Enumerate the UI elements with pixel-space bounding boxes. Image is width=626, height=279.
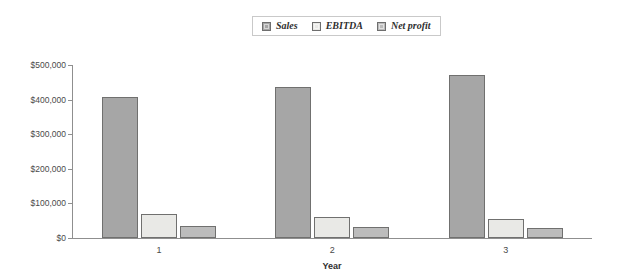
bar-sales-3[interactable]: [449, 75, 485, 238]
legend-swatch-net-profit: [377, 22, 386, 31]
legend-swatch-sales: [262, 22, 271, 31]
y-axis-line: [72, 65, 73, 238]
bar-net-profit-1[interactable]: [180, 226, 216, 238]
legend-label-sales: Sales: [276, 21, 298, 31]
legend-swatch-ebitda: [312, 22, 321, 31]
bar-group: [449, 65, 563, 238]
x-axis-tick-label: 1: [156, 246, 161, 255]
x-axis-title: Year: [72, 262, 592, 271]
bar-net-profit-3[interactable]: [527, 228, 563, 238]
x-axis-line: [72, 238, 592, 239]
legend-item-ebitda[interactable]: EBITDA: [312, 21, 363, 31]
y-axis-tick-label: $200,000: [6, 165, 66, 174]
bar-ebitda-2[interactable]: [314, 217, 350, 238]
y-axis-tick-label: $0: [6, 234, 66, 243]
legend-item-sales[interactable]: Sales: [262, 21, 298, 31]
y-axis-tick-label: $400,000: [6, 95, 66, 104]
y-axis-tick-label: $100,000: [6, 199, 66, 208]
y-axis-tick: [68, 203, 72, 204]
bar-chart: Sales EBITDA Net profit $0$100,000$200,0…: [0, 0, 626, 279]
bar-sales-1[interactable]: [102, 97, 138, 238]
y-axis-tick: [68, 65, 72, 66]
y-axis-tick: [68, 238, 72, 239]
y-axis-tick-label: $300,000: [6, 130, 66, 139]
legend-item-net-profit[interactable]: Net profit: [377, 21, 431, 31]
bar-net-profit-2[interactable]: [353, 227, 389, 238]
x-axis-tick-label: 2: [330, 246, 335, 255]
bar-group: [102, 65, 216, 238]
plot-area: $0$100,000$200,000$300,000$400,000$500,0…: [72, 60, 592, 238]
y-axis-tick: [68, 100, 72, 101]
legend-label-net-profit: Net profit: [391, 21, 431, 31]
bar-group: [275, 65, 389, 238]
y-axis-tick: [68, 134, 72, 135]
bar-ebitda-3[interactable]: [488, 219, 524, 238]
y-axis-tick: [68, 169, 72, 170]
bar-sales-2[interactable]: [275, 87, 311, 238]
y-axis-tick-label: $500,000: [6, 61, 66, 70]
bar-ebitda-1[interactable]: [141, 214, 177, 238]
chart-legend: Sales EBITDA Net profit: [252, 16, 441, 36]
legend-label-ebitda: EBITDA: [326, 21, 363, 31]
x-axis-tick-label: 3: [503, 246, 508, 255]
